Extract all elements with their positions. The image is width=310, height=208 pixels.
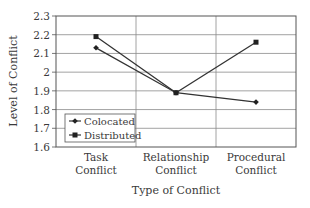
legend: ColocatedDistributed: [65, 114, 142, 142]
y-tick-label: 1.8: [33, 104, 50, 116]
y-tick-label: 1.7: [33, 122, 50, 134]
x-axis-ticks: TaskConflictRelationshipConflictProcedur…: [75, 151, 286, 176]
series-lines: [93, 34, 259, 105]
chart-canvas: 1.61.71.81.922.12.22.3 TaskConflictRelat…: [0, 0, 310, 208]
y-tick-label: 2.3: [33, 10, 50, 22]
diamond-marker-icon: [253, 99, 259, 105]
square-marker-icon: [94, 34, 99, 39]
y-tick-label: 2.1: [33, 47, 50, 59]
diamond-marker-icon: [93, 45, 99, 51]
x-axis-label: Type of Conflict: [132, 184, 221, 197]
series-distributed: [94, 34, 259, 95]
y-axis-label: Level of Conflict: [7, 35, 20, 127]
square-marker-icon: [174, 90, 179, 95]
x-tick-label: Conflict: [75, 164, 117, 176]
x-tick-label: Conflict: [235, 164, 277, 176]
x-tick-label: Relationship: [143, 151, 210, 163]
square-marker-icon: [73, 133, 78, 138]
line-chart: 1.61.71.81.922.12.22.3 TaskConflictRelat…: [0, 0, 310, 208]
x-tick-label: Conflict: [155, 164, 197, 176]
legend-label: Distributed: [84, 130, 142, 141]
x-tick-label: Procedural: [227, 151, 286, 163]
y-tick-label: 2.2: [33, 29, 50, 41]
y-tick-label: 1.6: [33, 141, 50, 153]
legend-label: Colocated: [84, 116, 135, 127]
y-tick-label: 1.9: [33, 85, 50, 97]
square-marker-icon: [254, 40, 259, 45]
x-tick-label: Task: [84, 151, 109, 163]
series-colocated: [93, 45, 259, 105]
y-tick-label: 2: [43, 66, 50, 78]
y-axis-ticks: 1.61.71.81.922.12.22.3: [33, 10, 56, 153]
